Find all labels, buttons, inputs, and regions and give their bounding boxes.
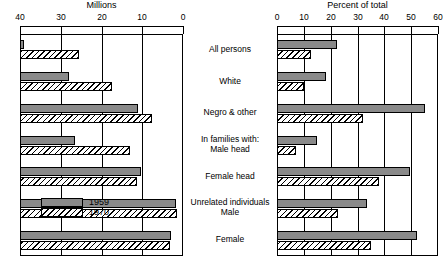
bar-1959-left (20, 40, 24, 49)
left-tick-mark (20, 26, 21, 34)
right-tick-mark (438, 26, 439, 34)
left-tick-label: 10 (137, 12, 146, 22)
bar-1959-right (277, 72, 326, 81)
right-panel-title: Percent of total (277, 0, 438, 10)
category-label: All persons (209, 44, 251, 54)
bar-1970-right (277, 146, 296, 155)
bar-1970-right (277, 241, 371, 250)
bar-1970-left (20, 146, 130, 155)
left-tick-mark (102, 26, 103, 34)
left-tick-label: 0 (181, 12, 186, 22)
right-tick-mark (384, 26, 385, 34)
bar-1959-right (277, 231, 417, 240)
category-label: In families with: Male head (201, 134, 259, 154)
right-tick-label: 20 (326, 12, 335, 22)
bar-1959-right (277, 104, 425, 113)
left-tick-label: 30 (56, 12, 65, 22)
right-gridline (304, 34, 305, 256)
left-tick-mark (61, 26, 62, 34)
right-tick-label: 60 (433, 12, 442, 22)
left-tick-mark (183, 26, 184, 34)
category-label: White (219, 76, 241, 86)
right-gridline (411, 34, 412, 256)
bar-1959-left (20, 104, 138, 113)
bar-1970-right (277, 209, 338, 218)
left-gridline (142, 34, 143, 256)
left-tick-label: 20 (97, 12, 106, 22)
category-label: Unrelated individuals Male (191, 197, 270, 217)
left-tick-label: 40 (15, 12, 24, 22)
bar-1959-left (20, 136, 75, 145)
right-gridline (384, 34, 385, 256)
bar-1970-right (277, 114, 363, 123)
right-tick-mark (411, 26, 412, 34)
right-tick-label: 10 (299, 12, 308, 22)
left-tick-mark (142, 26, 143, 34)
bar-1959-left (20, 167, 141, 176)
bar-chart: Millions Percent of total 403020100 0102… (0, 0, 446, 278)
right-tick-mark (331, 26, 332, 34)
bar-1959-right (277, 199, 367, 208)
legend-label-1959: 1959 (89, 197, 109, 207)
category-label: Negro & other (204, 107, 257, 117)
bar-1970-left (20, 177, 137, 186)
right-tick-label: 30 (353, 12, 362, 22)
right-tick-label: 0 (275, 12, 280, 22)
bar-1959-right (277, 40, 337, 49)
right-tick-label: 40 (379, 12, 388, 22)
right-tick-mark (358, 26, 359, 34)
bar-1959-right (277, 136, 317, 145)
bar-1970-left (20, 82, 112, 91)
right-tick-label: 50 (406, 12, 415, 22)
left-panel-title: Millions (20, 0, 183, 10)
category-label: Female head (205, 171, 255, 181)
bar-1959-left (20, 72, 69, 81)
right-gridline (331, 34, 332, 256)
bar-1959-right (277, 167, 410, 176)
bar-1970-right (277, 177, 379, 186)
bar-1970-right (277, 82, 304, 91)
bar-1959-left (20, 231, 171, 240)
bar-1970-right (277, 50, 311, 59)
legend-label-1970: 1970 (89, 207, 109, 217)
legend-swatch-1970 (41, 208, 83, 217)
category-label: Female (216, 234, 244, 244)
legend-swatch-1959 (41, 198, 83, 207)
bar-1970-left (20, 241, 170, 250)
right-gridline (358, 34, 359, 256)
bar-1970-left (20, 50, 79, 59)
right-tick-mark (304, 26, 305, 34)
right-tick-mark (277, 26, 278, 34)
bar-1970-left (20, 114, 152, 123)
